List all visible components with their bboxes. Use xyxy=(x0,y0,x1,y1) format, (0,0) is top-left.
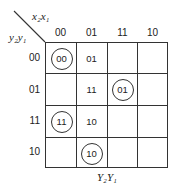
map-cell xyxy=(137,74,168,106)
cell-value: 01 xyxy=(117,84,128,95)
cell-value: 11 xyxy=(87,84,97,95)
map-cell: 01 xyxy=(107,74,138,106)
stable-state-circle: 01 xyxy=(112,79,134,101)
map-cell: 11 xyxy=(76,74,107,106)
map-cell xyxy=(46,138,77,170)
row-variables-label: y₂y₁ xyxy=(9,31,26,43)
map-cell: 10 xyxy=(76,106,107,138)
output-label: Y₂Y₁ xyxy=(97,171,117,183)
column-header: 01 xyxy=(76,27,107,38)
column-variables-label: x₂x₁ xyxy=(32,10,49,22)
stable-state-circle: 10 xyxy=(81,143,103,165)
map-cell xyxy=(137,106,168,138)
map-cell xyxy=(137,43,168,75)
row-header: 00 xyxy=(20,52,40,63)
map-cell: 01 xyxy=(76,43,107,75)
stable-state-circle: 11 xyxy=(51,111,73,133)
map-cell xyxy=(107,138,138,170)
map-cell xyxy=(107,106,138,138)
cell-value: 11 xyxy=(57,116,67,127)
map-cell: 11 xyxy=(46,106,77,138)
cell-value: 00 xyxy=(56,53,67,64)
row-header: 10 xyxy=(20,146,40,157)
column-header: 11 xyxy=(107,27,138,38)
cell-value: 10 xyxy=(86,116,97,127)
stable-state-circle: 00 xyxy=(51,48,73,70)
cell-value: 01 xyxy=(86,53,97,64)
map-cell xyxy=(107,43,138,75)
map-cell xyxy=(137,138,168,170)
map-cell: 10 xyxy=(76,138,107,170)
map-cell: 00 xyxy=(46,43,77,75)
row-header: 11 xyxy=(20,115,40,126)
column-header: 00 xyxy=(45,27,76,38)
row-header: 01 xyxy=(20,84,40,95)
cell-value: 10 xyxy=(86,148,97,159)
column-header: 10 xyxy=(137,27,168,38)
map-cell xyxy=(46,74,77,106)
karnaugh-map-grid: 00 01 11 01 11 10 10 xyxy=(45,42,168,168)
